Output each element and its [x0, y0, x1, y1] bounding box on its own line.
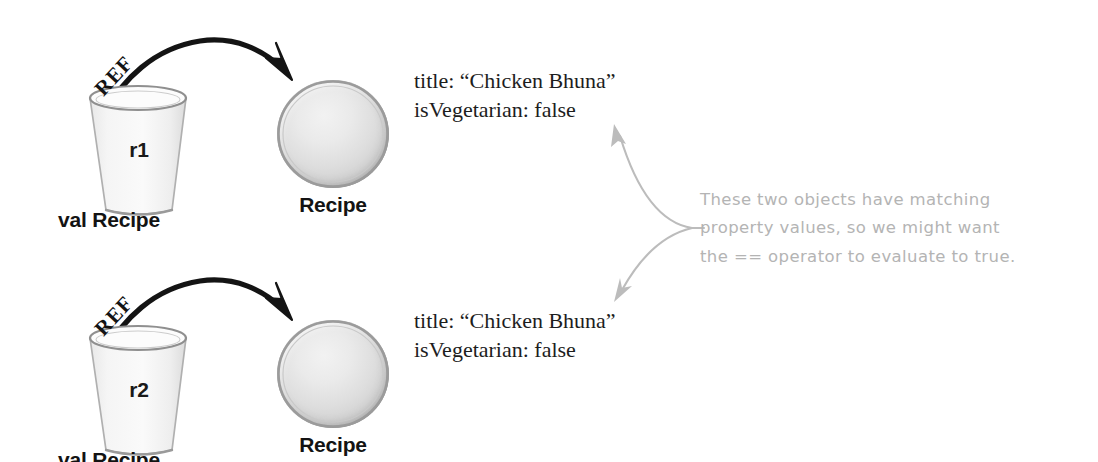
- reference-variable-cup: r2: [78, 316, 210, 462]
- reference-name-label: r2: [78, 378, 200, 402]
- reference-name-label: r1: [78, 138, 200, 162]
- annotation-callout-arrow-icon: [600, 118, 710, 308]
- object-type-label: Recipe: [271, 433, 395, 457]
- reference-variable-cup: r1: [78, 76, 210, 228]
- property-line: isVegetarian: false: [414, 335, 616, 364]
- declaration-label: val Recipe: [58, 448, 160, 462]
- object-properties: title: “Chicken Bhuna” isVegetarian: fal…: [414, 66, 616, 125]
- object-type-label: Recipe: [271, 193, 395, 217]
- ball-outline-icon: [277, 320, 389, 428]
- diagram-canvas: r1 REF val Recipe Recipe title: “Chicken…: [0, 0, 1098, 462]
- annotation-line: the == operator to evaluate to true.: [700, 243, 1016, 271]
- object-properties: title: “Chicken Bhuna” isVegetarian: fal…: [414, 306, 616, 365]
- ball-outline-icon: [277, 80, 389, 188]
- property-line: title: “Chicken Bhuna”: [414, 66, 616, 95]
- heap-object-ball: Recipe: [277, 320, 407, 462]
- heap-object-ball: Recipe: [277, 80, 407, 230]
- annotation-line: property values, so we might want: [700, 214, 1016, 242]
- annotation-line: These two objects have matching: [700, 186, 1016, 214]
- declaration-label: val Recipe: [58, 208, 160, 232]
- property-line: title: “Chicken Bhuna”: [414, 306, 616, 335]
- property-line: isVegetarian: false: [414, 95, 616, 124]
- object-reference-row: r2 REF val Recipe Recipe title: “Chicken…: [0, 258, 1098, 462]
- annotation-note: These two objects have matching property…: [700, 186, 1016, 271]
